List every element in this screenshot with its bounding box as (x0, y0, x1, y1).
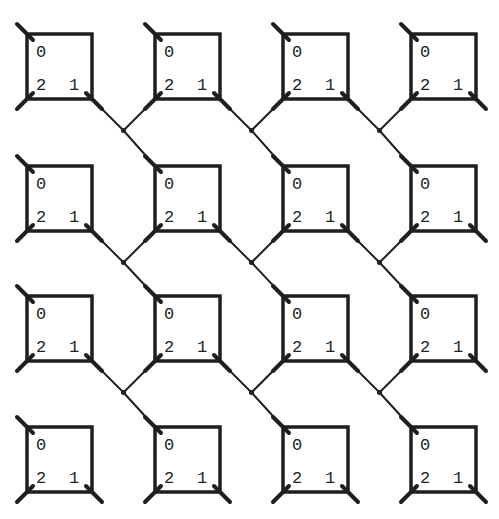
cell-r3-c0: 021 (17, 417, 102, 502)
port2-label: 2 (420, 76, 430, 95)
port2-stub (17, 486, 33, 502)
port2-stub (401, 486, 417, 502)
junction-dot (121, 390, 126, 395)
port2-stub (145, 225, 161, 241)
port0-label: 0 (164, 436, 174, 455)
cell-r1-c1: 021 (145, 156, 230, 241)
cell-r0-c0: 021 (17, 24, 102, 109)
port1-label: 1 (197, 76, 207, 95)
junction-dot (121, 260, 126, 265)
port1-label: 1 (197, 338, 207, 357)
cell-r2-c3: 021 (401, 286, 486, 371)
port0-label: 0 (420, 436, 430, 455)
port0-stub (401, 156, 417, 172)
port2-label: 2 (164, 338, 174, 357)
port1-stub (86, 355, 102, 371)
port0-stub (401, 286, 417, 302)
cell-r0-c1: 021 (145, 24, 230, 109)
port1-label: 1 (325, 76, 335, 95)
port0-label: 0 (292, 436, 302, 455)
port2-stub (17, 225, 33, 241)
port0-label: 0 (164, 305, 174, 324)
cell-r2-c2: 021 (273, 286, 358, 371)
port2-stub (145, 93, 161, 109)
port1-label: 1 (453, 338, 463, 357)
junction-dot (377, 390, 382, 395)
port2-label: 2 (420, 338, 430, 357)
port0-stub (401, 417, 417, 433)
port1-stub (470, 355, 486, 371)
port2-label: 2 (36, 76, 46, 95)
port2-stub (273, 225, 289, 241)
junction-dot (121, 128, 126, 133)
port0-stub (17, 24, 33, 40)
port1-label: 1 (453, 469, 463, 488)
port0-label: 0 (292, 305, 302, 324)
port2-stub (401, 225, 417, 241)
port2-stub (273, 486, 289, 502)
port0-stub (17, 286, 33, 302)
port1-stub (214, 355, 230, 371)
port2-label: 2 (164, 208, 174, 227)
port1-stub (342, 225, 358, 241)
port0-label: 0 (164, 175, 174, 194)
port2-stub (145, 486, 161, 502)
port2-stub (273, 355, 289, 371)
port1-label: 1 (69, 469, 79, 488)
cell-r1-c2: 021 (273, 156, 358, 241)
cell-r0-c2: 021 (273, 24, 358, 109)
junction-dot (377, 128, 382, 133)
cell-r2-c0: 021 (17, 286, 102, 371)
cell-r3-c2: 021 (273, 417, 358, 502)
port1-stub (470, 93, 486, 109)
port1-stub (470, 486, 486, 502)
cell-r1-c3: 021 (401, 156, 486, 241)
port2-label: 2 (420, 469, 430, 488)
wires (92, 99, 411, 427)
port0-stub (17, 156, 33, 172)
port0-label: 0 (292, 43, 302, 62)
interaction-net-diagram: 0210210210210210210210210210210210210210… (0, 0, 499, 519)
port2-stub (17, 93, 33, 109)
port0-label: 0 (36, 305, 46, 324)
port1-stub (342, 355, 358, 371)
port2-label: 2 (164, 469, 174, 488)
junction-dot (249, 260, 254, 265)
port0-label: 0 (36, 175, 46, 194)
port1-stub (86, 93, 102, 109)
junction-dot (249, 128, 254, 133)
port1-stub (86, 225, 102, 241)
port2-stub (401, 355, 417, 371)
junction-dot (249, 390, 254, 395)
port0-label: 0 (420, 43, 430, 62)
cell-r3-c3: 021 (401, 417, 486, 502)
port2-stub (401, 93, 417, 109)
port2-stub (145, 355, 161, 371)
port1-stub (214, 93, 230, 109)
port2-label: 2 (164, 76, 174, 95)
port0-stub (17, 417, 33, 433)
port0-stub (145, 417, 161, 433)
port0-stub (273, 286, 289, 302)
port1-label: 1 (197, 208, 207, 227)
port0-stub (273, 156, 289, 172)
port0-stub (273, 417, 289, 433)
port2-label: 2 (292, 469, 302, 488)
port2-label: 2 (292, 208, 302, 227)
port2-stub (17, 355, 33, 371)
port0-stub (145, 24, 161, 40)
port2-label: 2 (36, 208, 46, 227)
port0-label: 0 (292, 175, 302, 194)
port0-stub (273, 24, 289, 40)
cell-r0-c3: 021 (401, 24, 486, 109)
port1-label: 1 (325, 338, 335, 357)
port0-stub (401, 24, 417, 40)
port0-label: 0 (164, 43, 174, 62)
port1-stub (342, 486, 358, 502)
port1-label: 1 (325, 208, 335, 227)
port1-label: 1 (69, 338, 79, 357)
port1-stub (342, 93, 358, 109)
cell-r1-c0: 021 (17, 156, 102, 241)
cell-r2-c1: 021 (145, 286, 230, 371)
port2-label: 2 (420, 208, 430, 227)
